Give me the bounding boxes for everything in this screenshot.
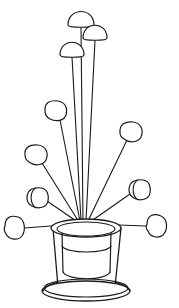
flowers-in-vase-illustration: Flowers in a Vase [0,0,179,308]
bloom-flower-mid-upper-left [45,101,67,121]
vase-group [42,219,130,301]
bloom-flower-mid-upper-right [120,122,142,142]
bloom-flower-side-left [27,188,48,208]
bloom-flower-low-right [146,215,166,237]
vase-foot-outer [42,281,130,301]
bloom-flower-mid-left [25,145,47,165]
bloom-flower-low-left [4,216,24,239]
drawing-canvas: Flowers in a Vase [0,0,179,308]
bloom-flower-side-right [129,180,150,200]
